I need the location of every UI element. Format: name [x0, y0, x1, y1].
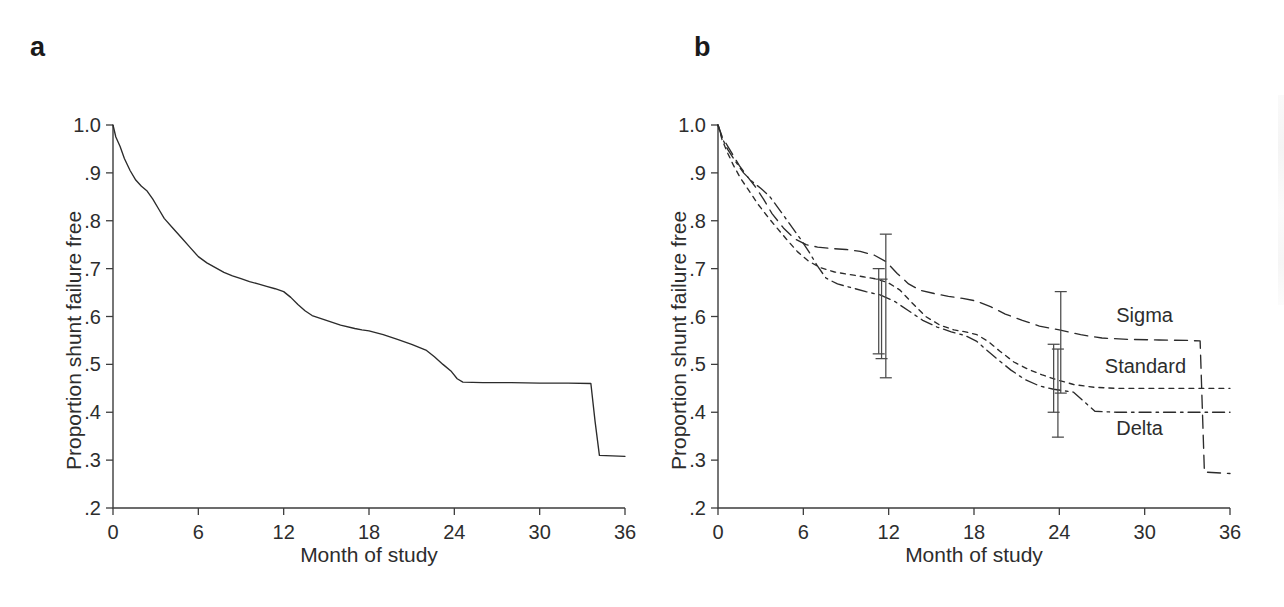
x-tick-label: 6: [798, 522, 809, 542]
y-tick-label: .2: [662, 498, 706, 518]
panel-a-yaxis-title: Proportion shunt failure free: [62, 211, 86, 470]
curve-standard: [718, 125, 1230, 388]
panel-b: b .2.3.4.5.6.7.8.91.0061218243036 Month …: [660, 0, 1284, 607]
y-tick-label: .9: [662, 163, 706, 183]
curve-all shunts: [113, 125, 625, 456]
error-bar-sigma: [1055, 292, 1067, 393]
x-tick-label: 18: [358, 522, 380, 542]
panel-b-xaxis-title: Month of study: [905, 543, 1043, 567]
y-tick-label: .9: [57, 163, 101, 183]
x-tick-label: 12: [878, 522, 900, 542]
scan-edge-artifact: [1278, 95, 1284, 305]
x-tick-label: 0: [712, 522, 723, 542]
panel-b-yaxis-title: Proportion shunt failure free: [667, 211, 691, 470]
x-tick-label: 18: [963, 522, 985, 542]
y-tick-label: 1.0: [662, 115, 706, 135]
figure-root: a .2.3.4.5.6.7.8.91.0061218243036 Month …: [0, 0, 1284, 607]
x-tick-label: 0: [107, 522, 118, 542]
x-tick-label: 30: [529, 522, 551, 542]
series-label-delta: Delta: [1116, 417, 1163, 440]
series-label-sigma: Sigma: [1116, 304, 1173, 327]
x-tick-label: 6: [193, 522, 204, 542]
series-label-standard: Standard: [1105, 355, 1186, 378]
panel-a-xaxis-title: Month of study: [300, 543, 438, 567]
panel-a: a .2.3.4.5.6.7.8.91.0061218243036 Month …: [0, 0, 660, 607]
panel-b-plot: [660, 0, 1284, 607]
x-tick-label: 36: [1219, 522, 1241, 542]
x-tick-label: 24: [443, 522, 465, 542]
x-tick-label: 36: [614, 522, 636, 542]
x-tick-label: 24: [1048, 522, 1070, 542]
x-tick-label: 30: [1134, 522, 1156, 542]
y-tick-label: .2: [57, 498, 101, 518]
y-tick-label: 1.0: [57, 115, 101, 135]
x-tick-label: 12: [273, 522, 295, 542]
